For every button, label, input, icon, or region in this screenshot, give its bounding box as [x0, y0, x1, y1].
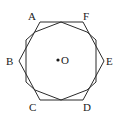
center-point-dot: [56, 58, 59, 61]
vertex-label-b: B: [6, 56, 13, 67]
vertex-label-d: D: [83, 102, 91, 113]
vertex-label-a: A: [28, 11, 36, 22]
vertex-label-c: C: [29, 102, 36, 113]
geometry-figure: A F E D C B O: [0, 0, 123, 121]
vertex-label-f: F: [83, 11, 89, 22]
vertex-label-e: E: [106, 56, 113, 67]
center-label-o: O: [61, 55, 69, 66]
